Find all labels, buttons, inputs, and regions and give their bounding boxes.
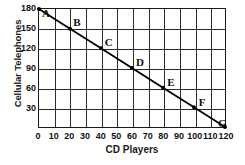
chart-screenshot: Cellular Telephones 180150120906030 ABCD… [0, 0, 245, 165]
x-tick-label: 60 [127, 131, 137, 141]
plot-area: ABCDEFG [38, 8, 226, 128]
data-series-line [39, 9, 225, 127]
x-tick-label: 0 [35, 131, 40, 141]
data-point-marker [192, 105, 196, 109]
x-tick-label: 50 [111, 131, 121, 141]
y-tick-label: 150 [14, 23, 36, 33]
x-axis-title: CD Players [38, 144, 226, 155]
data-point-label: D [136, 57, 144, 68]
data-point-marker [68, 27, 72, 31]
data-point-label: B [73, 17, 80, 28]
x-tick-label: 20 [64, 131, 74, 141]
x-tick-label: 30 [80, 131, 90, 141]
x-tick-label: 70 [143, 131, 153, 141]
x-tick-label: 80 [158, 131, 168, 141]
data-point-label: E [167, 77, 174, 88]
data-point-label: A [42, 8, 50, 19]
x-tick-label: 100 [187, 131, 202, 141]
data-point-label: G [218, 118, 227, 129]
data-point-marker [130, 66, 134, 70]
data-point-label: C [105, 37, 113, 48]
y-axis-tick-labels: 180150120906030 [14, 8, 36, 128]
data-point-label: F [199, 97, 206, 108]
data-point-marker [99, 46, 103, 50]
data-point-marker [37, 7, 41, 11]
y-tick-label: 60 [14, 83, 36, 93]
x-tick-label: 120 [218, 131, 233, 141]
x-tick-label: 40 [96, 131, 106, 141]
y-tick-label: 120 [14, 43, 36, 53]
data-point-marker [161, 86, 165, 90]
x-tick-label: 110 [203, 131, 218, 141]
x-tick-label: 10 [49, 131, 59, 141]
y-tick-label: 90 [14, 63, 36, 73]
x-tick-label: 90 [174, 131, 184, 141]
plot-inner: ABCDEFG [39, 9, 225, 127]
x-axis-tick-labels: 0102030405060708090100110120 [38, 131, 226, 143]
y-tick-label: 180 [14, 3, 36, 13]
y-tick-label: 30 [14, 103, 36, 113]
